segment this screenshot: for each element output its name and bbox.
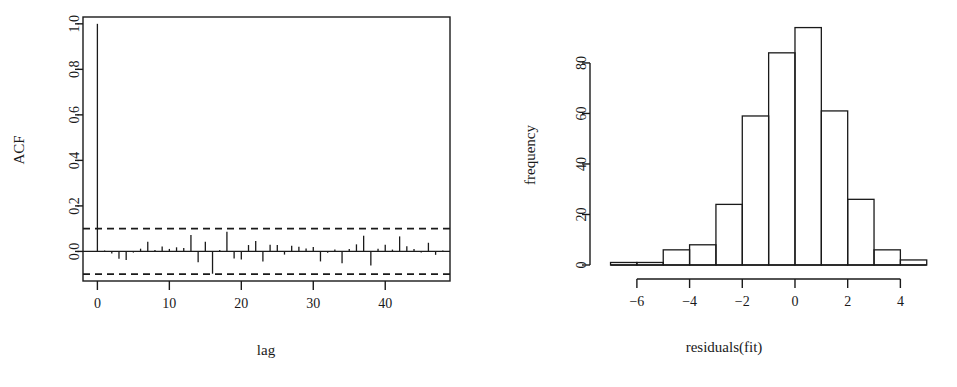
acf-y-tick-label: 0.6 [67,106,82,124]
acf-y-tick-label: 0.8 [67,61,82,79]
acf-y-tick-label: 1.0 [67,15,82,33]
histogram-x-tick-label: 4 [897,294,904,309]
acf-y-axis: 0.00.20.40.60.81.0 [67,15,83,260]
histogram-bars [611,28,927,265]
acf-spikes [97,24,442,274]
histogram-y-tick-label: 80 [574,56,589,70]
acf-x-tick-label: 40 [378,296,392,311]
histogram-y-tick-group: 020406080 [574,56,590,269]
histogram-y-tick-label: 40 [574,157,589,171]
acf-x-tick-label: 20 [234,296,248,311]
histogram-bar [795,28,821,265]
histogram-y-tick-label: 60 [574,106,589,120]
acf-y-tick-label: 0.2 [67,197,82,215]
histogram-bar [900,260,926,265]
histogram-x-tick-label: −4 [682,294,697,309]
acf-y-tick-group: 0.00.20.40.60.81.0 [67,15,83,260]
acf-svg: ACF lag 0.00.20.40.60.81.0 010203040 [0,0,480,387]
histogram-bar [821,111,847,265]
histogram-bar [663,250,689,265]
histogram-x-tick-label: 2 [844,294,851,309]
acf-x-tick-label: 30 [306,296,320,311]
acf-plot-panel: ACF lag 0.00.20.40.60.81.0 010203040 [0,0,480,387]
histogram-x-tick-label: 0 [791,294,798,309]
acf-x-tick-label: 10 [162,296,176,311]
acf-x-axis: 010203040 [94,281,392,311]
histogram-y-tick-label: 20 [574,207,589,221]
histogram-x-tick-group: −6−4−2024 [629,279,903,309]
acf-xlabel: lag [257,342,276,358]
histogram-bar [769,53,795,265]
histogram-bar [742,116,768,265]
acf-x-tick-label: 0 [94,296,101,311]
acf-y-tick-label: 0.4 [67,152,82,170]
figure-container: ACF lag 0.00.20.40.60.81.0 010203040 [0,0,957,387]
acf-plot-box [83,17,450,281]
histogram-svg: frequency residuals(fit) 020406080 −6−4−… [480,0,957,387]
acf-x-tick-group: 010203040 [94,281,392,311]
histogram-x-tick-label: −6 [629,294,644,309]
histogram-bar [848,199,874,265]
acf-ylabel: ACF [11,135,27,164]
histogram-x-axis: −6−4−2024 [629,279,903,309]
histogram-bar [690,245,716,265]
histogram-y-axis: 020406080 [574,56,590,269]
histogram-ylabel: frequency [522,125,538,185]
histogram-bar [716,204,742,265]
acf-y-tick-label: 0.0 [67,243,82,261]
histogram-bar [874,250,900,265]
histogram-plot-panel: frequency residuals(fit) 020406080 −6−4−… [480,0,957,387]
histogram-y-tick-label: 0 [574,262,589,269]
histogram-xlabel: residuals(fit) [686,339,763,356]
histogram-x-tick-label: −2 [735,294,750,309]
